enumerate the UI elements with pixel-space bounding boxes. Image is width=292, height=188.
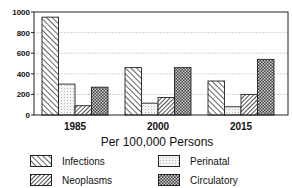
y-tick-label: 1000 bbox=[12, 8, 30, 17]
bar-infections-2000 bbox=[125, 68, 142, 115]
bar-perinatal-2000 bbox=[142, 103, 159, 115]
bar-circulatory-2015 bbox=[258, 59, 275, 115]
circulatory-swatch-icon bbox=[158, 174, 180, 186]
bar-infections-1985 bbox=[42, 17, 59, 115]
perinatal-swatch-icon bbox=[158, 155, 180, 167]
y-tick-label: 800 bbox=[17, 29, 31, 38]
bar-perinatal-2015 bbox=[225, 107, 242, 115]
bar-neoplasms-1985 bbox=[75, 106, 92, 115]
legend-label: Perinatal bbox=[190, 156, 229, 167]
legend-item-perinatal: Perinatal bbox=[158, 154, 229, 168]
bar-circulatory-2000 bbox=[175, 68, 192, 115]
bar-neoplasms-2015 bbox=[241, 94, 258, 115]
legend-label: Neoplasms bbox=[62, 175, 112, 186]
x-category-label: 1985 bbox=[64, 121, 87, 132]
neoplasms-swatch-icon bbox=[30, 174, 52, 186]
y-tick-label: 0 bbox=[26, 111, 31, 120]
legend-label: Circulatory bbox=[190, 175, 238, 186]
y-tick-label: 200 bbox=[17, 90, 31, 99]
bars bbox=[42, 17, 274, 115]
legend-label: Infections bbox=[62, 156, 105, 167]
x-category-label: 2000 bbox=[147, 121, 170, 132]
legend-item-infections: Infections bbox=[30, 154, 105, 168]
bar-perinatal-1985 bbox=[59, 84, 76, 115]
x-category-label: 2015 bbox=[230, 121, 253, 132]
infections-swatch-icon bbox=[30, 155, 52, 167]
y-tick-label: 600 bbox=[17, 49, 31, 58]
y-tick-label: 400 bbox=[17, 70, 31, 79]
bar-neoplasms-2000 bbox=[158, 97, 175, 115]
bar-infections-2015 bbox=[208, 81, 225, 115]
legend-item-circulatory: Circulatory bbox=[158, 173, 238, 187]
bar-chart: 02004006008001000198520002015 Per 100,00… bbox=[0, 0, 292, 150]
legend-item-neoplasms: Neoplasms bbox=[30, 173, 112, 187]
x-axis-label: Per 100,000 Persons bbox=[101, 135, 214, 149]
bar-circulatory-1985 bbox=[92, 87, 109, 115]
